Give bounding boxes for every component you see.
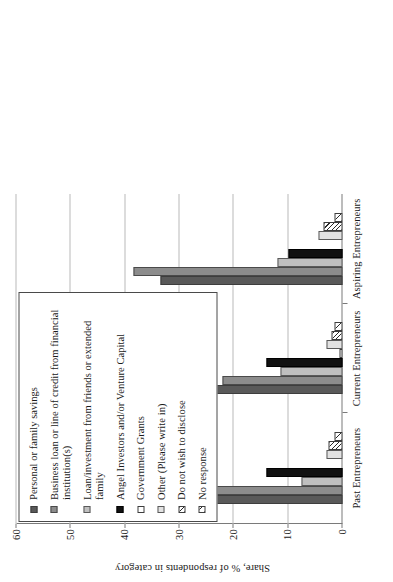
legend-swatch-icon [116,506,123,513]
y-tick-mark [232,524,233,528]
legend-item: Personal or family savings [27,302,40,513]
y-tick-mark [15,524,16,528]
legend-label: Business loan or line of credit from fin… [48,302,73,500]
bar [328,441,342,450]
category-label: Current Entrepreneurs [344,304,368,414]
bar-group [16,194,342,304]
legend-swatch-icon [198,506,205,513]
bar [266,359,342,368]
bar [339,350,342,359]
bar [318,231,342,240]
legend-item: Do not wish to disclose [175,302,188,513]
legend-swatch-icon [83,506,90,513]
bar [280,368,342,377]
y-tick-mark [287,524,288,528]
legend-label: Other (Please write in) [155,404,168,501]
bar [334,213,342,222]
legend-item: Government Grants [134,302,147,513]
bar [334,323,342,332]
legend-label: Do not wish to disclose [175,400,188,500]
bar [266,468,342,477]
legend-label: No response [196,447,209,500]
y-tick-label: 10 [282,529,293,540]
bar [326,341,342,350]
legend-label: Government Grants [134,416,147,500]
category-label: Aspiring Entrepreneurs [344,194,368,304]
bar [277,258,342,267]
legend-swatch-icon [178,506,185,513]
y-tick-label: 0 [337,529,348,534]
rotated-figure-container: Share, % of respondents in category 0102… [0,0,393,582]
bar [288,249,342,258]
legend-item: Business loan or line of credit from fin… [48,302,73,513]
bar [326,450,342,459]
bar [301,477,342,486]
bar [331,332,342,341]
y-tick-mark [341,524,342,528]
legend-item: Angel Investors and/or Venture Capital [114,302,127,513]
legend-label: Personal or family savings [27,387,40,500]
bar [222,377,342,386]
legend-swatch-icon [157,506,164,513]
category-labels: Past EntrepreneursCurrent EntrepreneursA… [344,194,368,523]
bar [323,222,342,231]
y-tick-label: 50 [65,529,76,540]
legend-swatch-icon [30,506,37,513]
y-tick-mark [178,524,179,528]
legend-item: No response [196,302,209,513]
legend-label: Loan/investment from friends or extended… [81,302,106,500]
legend-label: Angel Investors and/or Venture Capital [114,334,127,500]
y-tick-label: 40 [119,529,130,540]
bar [160,276,342,285]
chart-legend: Personal or family savingsBusiness loan … [18,292,217,522]
y-axis-title: Share, % of respondents in category [114,563,269,574]
legend-item: Other (Please write in) [155,302,168,513]
y-tick-label: 20 [228,529,239,540]
y-tick-mark [69,524,70,528]
legend-swatch-icon [137,506,144,513]
chart-figure: Share, % of respondents in category 0102… [0,0,393,582]
legend-swatch-icon [50,506,57,513]
bar [133,267,342,276]
y-tick-mark [124,524,125,528]
category-label: Past Entrepreneurs [344,413,368,523]
bar [334,432,342,441]
y-tick-label: 30 [174,529,185,540]
legend-items: Personal or family savingsBusiness loan … [27,302,208,513]
legend-item: Loan/investment from friends or extended… [81,302,106,513]
y-tick-label: 60 [11,529,22,540]
